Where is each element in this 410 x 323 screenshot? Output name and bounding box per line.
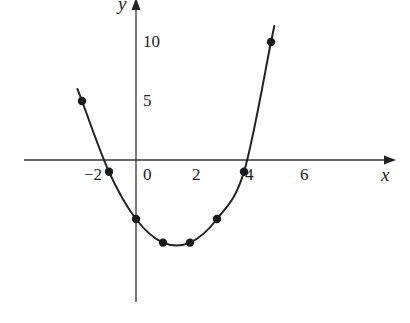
- x-tick-label: −2: [84, 166, 102, 183]
- x-tick-label: 2: [192, 166, 201, 183]
- x-tick-label: 6: [300, 166, 309, 183]
- y-axis-label: y: [118, 0, 126, 13]
- data-point-marker: [213, 215, 221, 223]
- y-axis-arrow-icon: [132, 0, 141, 10]
- x-tick-label: 4: [245, 166, 254, 183]
- data-point-marker: [132, 215, 140, 223]
- data-point-marker: [186, 238, 194, 246]
- y-tick-label: 10: [143, 33, 160, 50]
- chart-canvas: [0, 0, 410, 323]
- x-axis-label: x: [381, 165, 389, 184]
- data-point-marker: [267, 38, 275, 46]
- data-point-marker: [78, 97, 86, 105]
- data-markers: [78, 38, 275, 247]
- curve-line: [77, 26, 274, 246]
- data-point-marker: [159, 238, 167, 246]
- x-tick-label: 0: [143, 166, 152, 183]
- y-tick-label: 5: [143, 92, 152, 109]
- data-point-marker: [105, 168, 113, 176]
